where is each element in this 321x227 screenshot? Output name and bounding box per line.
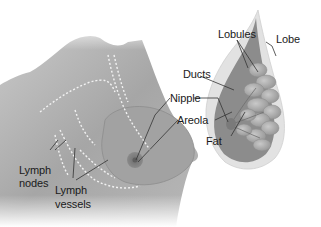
anatomy-illustration [0,0,321,227]
label-ducts: Ducts [183,68,211,80]
label-lymph-vessels-line1: Lymph [55,184,87,196]
label-lymph-nodes-line1: Lymph [19,164,51,176]
breast-anatomy-diagram: Lobules Lobe Ducts Nipple Areola Fat Lym… [0,0,321,227]
label-nipple: Nipple [170,92,201,104]
label-lobules: Lobules [218,28,256,40]
label-lymph-vessels-line2: vessels [55,198,91,210]
label-areola: Areola [177,114,208,126]
label-lymph-nodes-line2: nodes [19,177,48,189]
label-fat: Fat [206,135,222,147]
label-lobe: Lobe [276,33,300,45]
